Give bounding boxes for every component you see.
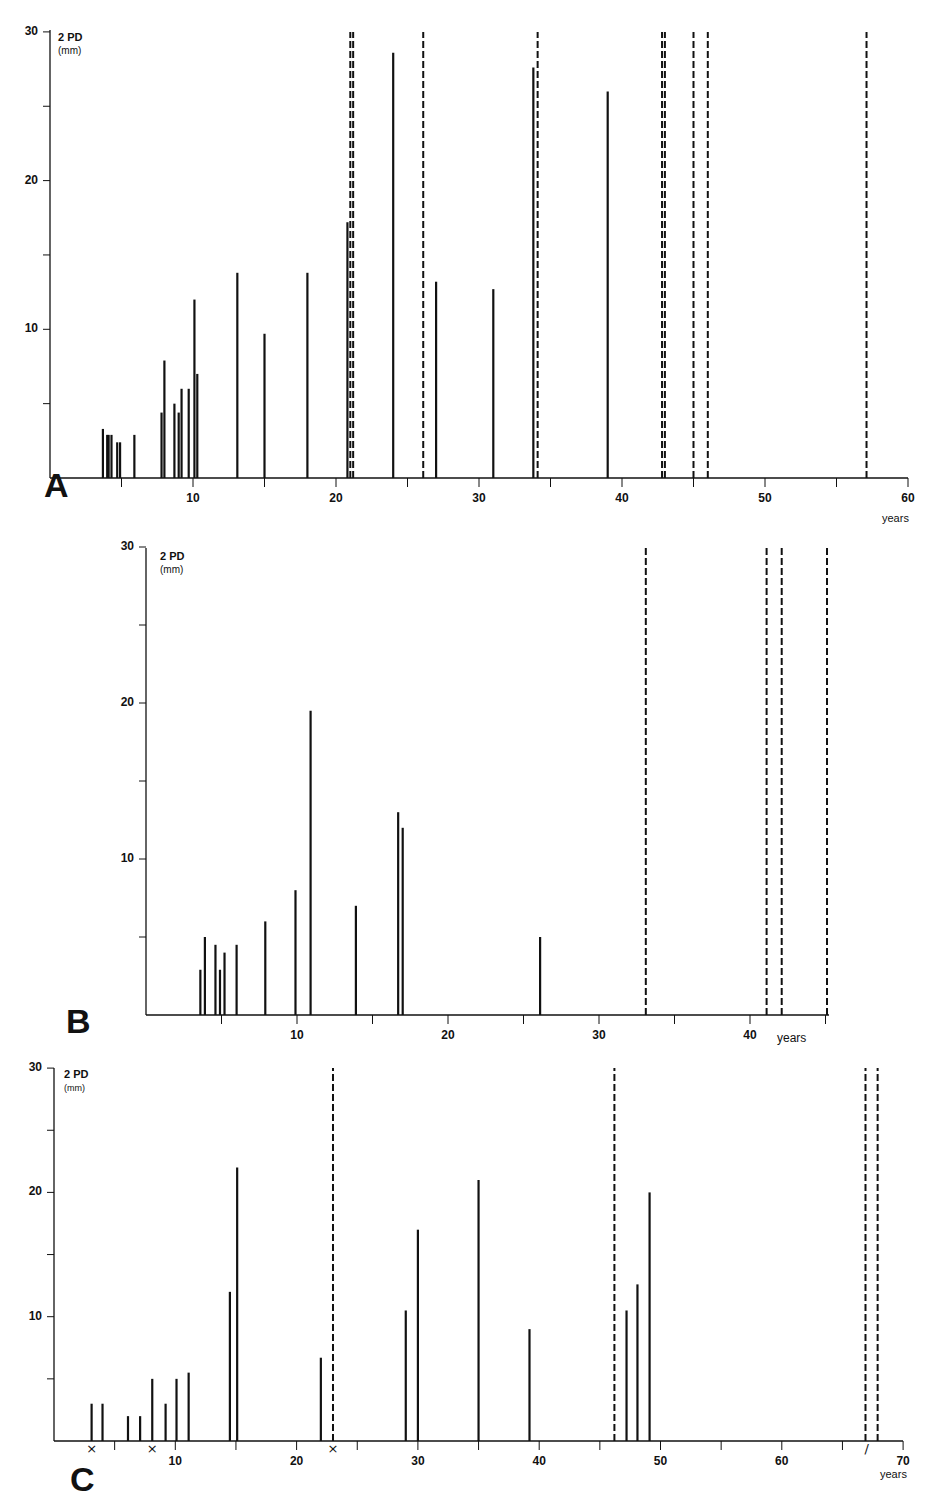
x-tick-label: 10 [169,1454,182,1468]
y-axis-title: 2 PD [64,1068,88,1080]
axis-marker: × [86,1441,97,1456]
y-tick-label: 10 [12,1309,42,1323]
x-tick-label: 60 [775,1454,788,1468]
panel-c-plot: ×××/ [0,0,946,1495]
x-tick-label: 50 [654,1454,667,1468]
y-tick-label: 20 [12,1184,42,1198]
y-axis-unit: (mm) [64,1081,88,1095]
x-axis-unit: years [880,1468,907,1480]
y-axis-label: 2 PD (mm) [64,1067,88,1095]
x-tick-label: 40 [533,1454,546,1468]
panel-letter: C [70,1462,95,1495]
axis-marker: × [147,1441,158,1456]
y-tick-label: 30 [12,1060,42,1074]
panel-c: ×××/ 2 PD (mm) C years 10203010203040506… [0,0,946,1495]
x-tick-label: 30 [411,1454,424,1468]
axis-marker: / [865,1441,870,1456]
x-tick-label: 20 [290,1454,303,1468]
axis-marker: × [328,1441,339,1456]
x-tick-label: 70 [896,1454,909,1468]
